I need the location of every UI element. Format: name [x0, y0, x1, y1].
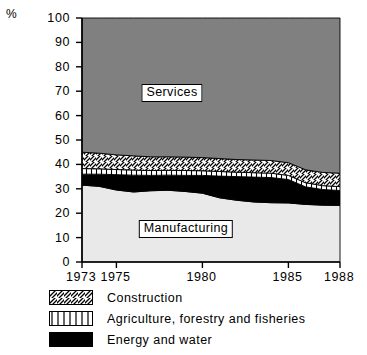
legend-label: Agriculture, forestry and fisheries [107, 312, 305, 326]
series-label-manufacturing: Manufacturing [139, 220, 233, 238]
y-axis-tick-label: 100 [30, 12, 70, 25]
legend-swatch-diagonal-hatch [49, 290, 93, 305]
legend-label: Energy and water [107, 333, 212, 347]
y-axis-tick-label: 70 [30, 85, 70, 98]
legend-label: Construction [107, 291, 183, 305]
x-axis-tick-label: 1975 [100, 271, 130, 284]
chart-page: % 1009080706050403020100 197319751980198 [0, 0, 367, 355]
y-axis-tick-label: 0 [30, 256, 70, 269]
legend-swatch-vertical-stripe [49, 311, 93, 326]
x-axis-tick-label: 1988 [324, 271, 354, 284]
series-label-services: Services [141, 84, 202, 102]
y-axis-tick-label: 10 [30, 232, 70, 245]
y-axis-tick-label: 20 [30, 207, 70, 220]
y-axis-tick-label: 90 [30, 36, 70, 49]
y-axis-tick-label: 60 [30, 110, 70, 123]
y-axis-tick-label: 80 [30, 61, 70, 74]
y-axis-tick-label: 30 [30, 183, 70, 196]
x-axis-tick-label: 1973 [66, 271, 96, 284]
services-area [82, 18, 340, 173]
x-axis-tick-label: 1980 [186, 271, 216, 284]
legend-swatch-solid [49, 332, 93, 347]
y-axis-tick-label: 40 [30, 158, 70, 171]
x-axis-tick-label: 1985 [272, 271, 302, 284]
y-axis-tick-label: 50 [30, 134, 70, 147]
